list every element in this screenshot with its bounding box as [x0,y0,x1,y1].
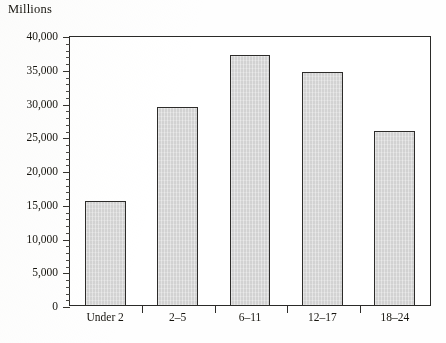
bar-chart: Millions Under 22–56–1112–1718–24 05,000… [0,0,446,343]
bar [85,201,126,306]
y-axis-label: 20,000 [0,165,58,177]
y-axis-label: 0 [0,300,58,312]
bar [374,131,415,307]
y-axis-label: 10,000 [0,233,58,245]
x-axis-label: 2–5 [141,311,213,323]
y-axis-label: 25,000 [0,131,58,143]
y-axis-label: 15,000 [0,199,58,211]
x-axis-label: 18–24 [359,311,431,323]
y-axis-label: 35,000 [0,64,58,76]
x-axis-label: Under 2 [69,311,141,323]
y-axis-title: Millions [8,2,52,17]
bar-series [69,36,431,306]
x-axis-label: 12–17 [286,311,358,323]
bar [302,72,343,306]
bar [157,107,198,306]
y-axis-label: 40,000 [0,30,58,42]
y-axis-label: 30,000 [0,98,58,110]
bar [230,55,271,306]
x-axis-label: 6–11 [214,311,286,323]
y-tick-major [63,307,70,308]
y-axis-label: 5,000 [0,266,58,278]
